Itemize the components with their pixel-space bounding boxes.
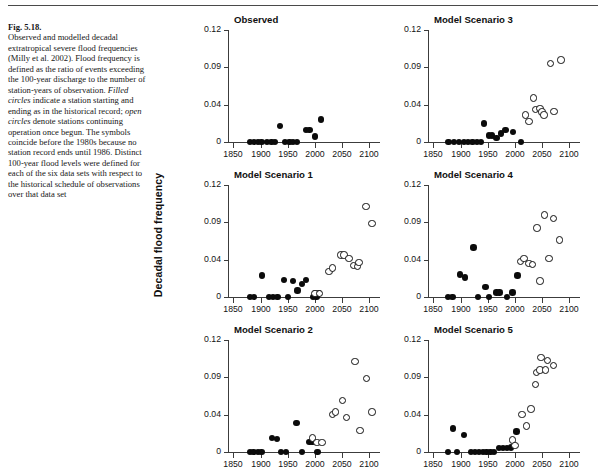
y-tick-scenario4-1 (424, 222, 429, 223)
panel-title-scenario4: Model Scenario 4 (434, 169, 513, 180)
x-tick-scenario4-5 (569, 298, 570, 303)
data-point-filled (478, 139, 484, 145)
y-tick-scenario3-0 (424, 30, 429, 31)
data-point-open (527, 405, 534, 412)
data-point-filled (470, 244, 476, 250)
y-tick-label-scenario5-2: 0.04 (394, 409, 421, 419)
y-tick-scenario3-3 (424, 142, 429, 143)
y-tick-observed-1 (224, 67, 229, 68)
data-point-filled (475, 294, 481, 300)
data-point-filled (461, 432, 467, 438)
x-tick-label-scenario5-5: 2100 (553, 459, 585, 469)
data-point-filled (318, 116, 324, 122)
x-tick-scenario3-5 (569, 143, 570, 148)
data-point-filled (449, 294, 455, 300)
data-point-open (550, 362, 557, 369)
x-tick-scenario1-0 (233, 298, 234, 303)
data-point-filled (277, 123, 283, 129)
x-tick-scenario5-3 (515, 453, 516, 458)
data-point-open (525, 118, 532, 125)
data-point-filled (281, 277, 287, 283)
data-point-open (547, 60, 554, 67)
data-point-open (316, 290, 323, 297)
x-tick-label-scenario1-5: 2100 (353, 304, 385, 314)
y-tick-label-observed-2: 0.04 (194, 99, 221, 109)
y-tick-label-scenario2-3: 0 (194, 446, 221, 456)
data-point-filled (510, 129, 516, 135)
data-point-filled (450, 425, 456, 431)
data-point-filled (486, 294, 492, 300)
data-point-filled (513, 428, 519, 434)
top-divider (8, 5, 598, 6)
panel-scenario1: Model Scenario 10.120.090.04018501900195… (196, 169, 396, 319)
data-point-filled (509, 289, 515, 295)
data-point-filled (482, 284, 488, 290)
y-tick-label-scenario5-1: 0.09 (394, 371, 421, 381)
y-axis-line-observed (228, 30, 229, 142)
x-tick-label-scenario2-5: 2100 (353, 459, 385, 469)
data-point-open (542, 366, 549, 373)
data-point-open (355, 259, 362, 266)
data-point-filled (303, 277, 309, 283)
data-point-open (556, 236, 563, 243)
y-tick-label-scenario1-3: 0 (194, 291, 221, 301)
data-point-open (518, 411, 525, 418)
data-point-filled (285, 294, 291, 300)
figure-label: Fig. 5.18. (8, 22, 148, 32)
y-tick-label-scenario4-3: 0 (394, 291, 421, 301)
panel-title-scenario3: Model Scenario 3 (434, 14, 513, 25)
y-tick-scenario5-2 (424, 415, 429, 416)
data-point-open (532, 381, 539, 388)
data-point-filled (514, 272, 520, 278)
y-tick-label-observed-1: 0.09 (194, 61, 221, 71)
plot-area-observed: 0.120.090.040185019001950200020502100 (228, 30, 380, 142)
y-tick-label-scenario2-2: 0.04 (194, 409, 221, 419)
y-tick-label-scenario3-2: 0.04 (394, 99, 421, 109)
x-tick-scenario5-4 (542, 453, 543, 458)
x-tick-scenario2-5 (369, 453, 370, 458)
x-tick-scenario4-4 (542, 298, 543, 303)
panel-scenario2: Model Scenario 20.120.090.04018501900195… (196, 324, 396, 473)
x-tick-scenario2-0 (233, 453, 234, 458)
y-axis-title-text: Decadal flood frequency (152, 173, 164, 297)
x-tick-observed-0 (233, 143, 234, 148)
x-tick-scenario1-1 (261, 298, 262, 303)
x-tick-label-scenario3-5: 2100 (553, 149, 585, 159)
data-point-filled (496, 289, 502, 295)
y-axis-line-scenario2 (228, 340, 229, 452)
data-point-filled (454, 449, 460, 455)
data-point-open (550, 215, 557, 222)
data-point-filled (251, 294, 257, 300)
data-point-open (362, 203, 369, 210)
data-point-filled (518, 139, 524, 145)
y-tick-label-scenario2-0: 0.12 (194, 334, 221, 344)
y-tick-observed-2 (224, 105, 229, 106)
data-point-filled (462, 274, 468, 280)
data-point-filled (293, 420, 299, 426)
x-tick-label-observed-5: 2100 (353, 149, 385, 159)
plot-area-scenario4: 0.120.090.040185019001950200020502100 (428, 185, 580, 297)
data-point-filled (272, 139, 278, 145)
y-tick-scenario2-3 (224, 452, 229, 453)
data-point-open (557, 56, 564, 63)
data-point-open (363, 375, 370, 382)
x-tick-scenario3-4 (542, 143, 543, 148)
data-point-open (530, 94, 537, 101)
y-axis-line-scenario4 (428, 185, 429, 297)
x-tick-scenario3-0 (433, 143, 434, 148)
data-point-open (318, 439, 325, 446)
x-tick-observed-5 (369, 143, 370, 148)
y-tick-scenario1-3 (224, 297, 229, 298)
y-tick-scenario2-1 (224, 377, 229, 378)
panel-observed: Observed0.120.090.0401850190019502000205… (196, 14, 396, 164)
data-point-filled (445, 449, 451, 455)
y-tick-label-observed-0: 0.12 (194, 24, 221, 34)
y-tick-scenario4-2 (424, 260, 429, 261)
y-axis-line-scenario3 (428, 30, 429, 142)
y-tick-scenario1-1 (224, 222, 229, 223)
data-point-open (351, 358, 358, 365)
data-point-open (540, 111, 547, 118)
data-point-filled (290, 278, 296, 284)
data-point-filled (299, 449, 305, 455)
data-point-filled (259, 272, 265, 278)
